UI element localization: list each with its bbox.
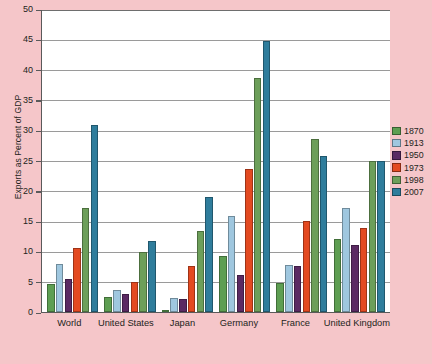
y-axis-tick-40: 40 (0, 65, 41, 77)
bar-group-germany (216, 10, 273, 312)
legend-item-label: 2007 (404, 187, 424, 197)
x-axis-tick-labels: WorldUnited StatesJapanGermanyFranceUnit… (41, 318, 390, 328)
y-axis-tick-10: 10 (0, 246, 41, 258)
y-axis-tick-label: 10 (23, 246, 41, 256)
bar-group-united-states (101, 10, 158, 312)
bar-group-world (44, 10, 101, 312)
legend-item-1998[interactable]: 1998 (392, 175, 424, 185)
bar-germany-1998[interactable] (254, 78, 262, 312)
bar-group-united-kingdom (331, 10, 388, 312)
bar-japan-1913[interactable] (170, 298, 178, 312)
y-axis-tick-label: 30 (23, 125, 41, 135)
y-axis-tick-0: 0 (0, 307, 41, 319)
y-axis-tick-label: 5 (28, 277, 41, 287)
bar-japan-1998[interactable] (197, 231, 205, 312)
y-axis-tick-label: 20 (23, 186, 41, 196)
y-axis-tick-20: 20 (0, 186, 41, 198)
y-axis-tick-label: 45 (23, 34, 41, 44)
bar-world-1913[interactable] (56, 264, 64, 312)
legend-swatch-icon (392, 176, 401, 185)
bar-united-states-2007[interactable] (148, 241, 156, 313)
legend-item-label: 1973 (404, 163, 424, 173)
bar-group-france (273, 10, 330, 312)
bar-united-kingdom-2007[interactable] (377, 161, 385, 312)
y-axis-tick-label: 15 (23, 216, 41, 226)
y-axis-tick-15: 15 (0, 216, 41, 228)
legend-item-2007[interactable]: 2007 (392, 187, 424, 197)
x-axis-label-france: France (267, 318, 324, 328)
x-axis-label-japan: Japan (154, 318, 211, 328)
bar-japan-1973[interactable] (188, 266, 196, 312)
bar-germany-1973[interactable] (245, 169, 253, 312)
bar-united-kingdom-1913[interactable] (342, 208, 350, 312)
y-axis-tick-5: 5 (0, 277, 41, 289)
legend-item-label: 1913 (404, 138, 424, 148)
bar-united-states-1950[interactable] (122, 294, 130, 312)
bar-japan-1870[interactable] (162, 310, 170, 312)
bar-united-states-1913[interactable] (113, 290, 121, 312)
bar-france-1973[interactable] (303, 221, 311, 312)
legend-item-label: 1998 (404, 175, 424, 185)
x-axis-label-world: World (41, 318, 98, 328)
y-axis-tick-35: 35 (0, 95, 41, 107)
bar-germany-1913[interactable] (228, 216, 236, 312)
bar-united-kingdom-1973[interactable] (360, 228, 368, 312)
bar-united-kingdom-1870[interactable] (334, 239, 342, 312)
legend: 187019131950197319982007 (392, 126, 424, 197)
y-axis-tick-label: 50 (23, 4, 41, 14)
bar-united-kingdom-1998[interactable] (369, 161, 377, 312)
legend-swatch-icon (392, 188, 401, 197)
bar-chart: Exports as Percent of GDP 50454035302520… (0, 0, 432, 364)
y-axis-tick-50: 50 (0, 4, 41, 16)
legend-item-1973[interactable]: 1973 (392, 163, 424, 173)
y-axis-tick-label: 25 (23, 156, 41, 166)
bar-united-states-1870[interactable] (104, 297, 112, 312)
legend-swatch-icon (392, 139, 401, 148)
bar-world-1870[interactable] (47, 284, 55, 312)
bar-united-states-1973[interactable] (131, 282, 139, 312)
bar-france-1950[interactable] (294, 266, 302, 312)
bar-world-1973[interactable] (73, 248, 81, 312)
y-axis-tick-label: 35 (23, 95, 41, 105)
bar-world-1998[interactable] (82, 208, 90, 312)
bar-france-1870[interactable] (276, 283, 284, 312)
bar-france-2007[interactable] (320, 156, 328, 312)
legend-swatch-icon (392, 127, 401, 136)
bar-group-japan (159, 10, 216, 312)
legend-item-1870[interactable]: 1870 (392, 126, 424, 136)
bar-france-1998[interactable] (311, 139, 319, 312)
bar-world-1950[interactable] (65, 279, 73, 312)
bar-united-kingdom-1950[interactable] (351, 245, 359, 312)
bar-france-1913[interactable] (285, 265, 293, 312)
bar-germany-1870[interactable] (219, 256, 227, 312)
x-axis-label-germany: Germany (211, 318, 268, 328)
x-axis-label-united-states: United States (98, 318, 155, 328)
legend-item-1950[interactable]: 1950 (392, 150, 424, 160)
bar-germany-2007[interactable] (263, 41, 271, 312)
bar-united-states-1998[interactable] (139, 252, 147, 312)
y-axis-tick-45: 45 (0, 34, 41, 46)
legend-item-label: 1870 (404, 126, 424, 136)
legend-swatch-icon (392, 151, 401, 160)
y-axis-tick-30: 30 (0, 125, 41, 137)
y-axis-tick-25: 25 (0, 156, 41, 168)
y-axis-tick-label: 0 (28, 307, 41, 317)
x-axis-label-united-kingdom: United Kingdom (324, 318, 390, 328)
bar-world-2007[interactable] (91, 125, 99, 312)
legend-swatch-icon (392, 163, 401, 172)
legend-item-1913[interactable]: 1913 (392, 138, 424, 148)
legend-item-label: 1950 (404, 150, 424, 160)
bar-japan-2007[interactable] (205, 197, 213, 312)
y-axis-tick-labels: 50454035302520151050 (0, 10, 41, 313)
plot-area (41, 10, 390, 313)
bar-japan-1950[interactable] (179, 299, 187, 312)
y-axis-tick-label: 40 (23, 65, 41, 75)
bar-groups (42, 10, 390, 312)
bar-germany-1950[interactable] (237, 275, 245, 312)
